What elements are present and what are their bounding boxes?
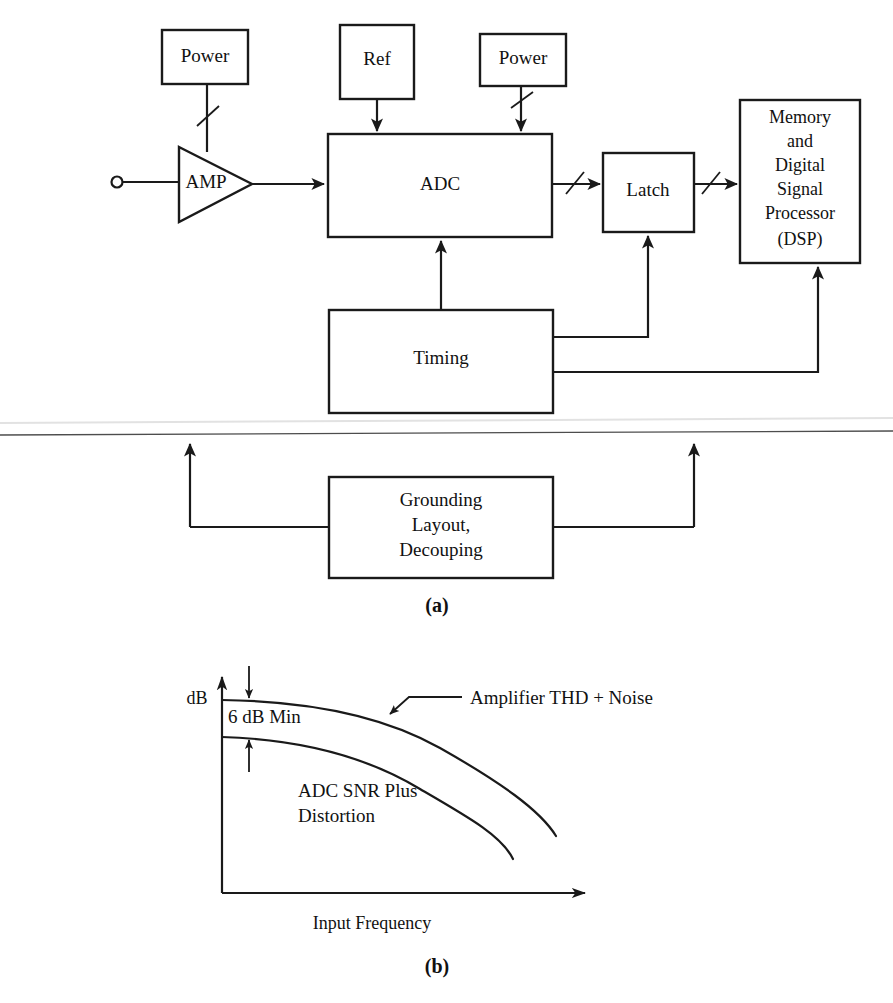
block-grounding-line-1: Grounding (400, 489, 483, 510)
block-power-right-label: Power (499, 47, 548, 68)
wire-timing-to-latch (553, 236, 648, 337)
chart-y-axis-label: dB (186, 688, 207, 708)
block-power-left-label: Power (181, 45, 230, 66)
amplifier-thd-callout-leader (390, 697, 462, 714)
six-db-min-label: 6 dB Min (228, 706, 301, 727)
figure-canvas: Power Ref Power AMP ADC Latch (0, 0, 893, 1003)
input-terminal (112, 177, 123, 188)
block-timing-label: Timing (413, 347, 469, 368)
amplifier-thd-callout-label: Amplifier THD + Noise (470, 687, 653, 708)
block-dsp-line-4: Signal (777, 179, 823, 199)
wire-timing-to-dsp (553, 267, 818, 372)
adc-snr-label-line-1: ADC SNR Plus (298, 780, 417, 801)
part-b-label: (b) (425, 955, 449, 978)
chart-x-axis-label: Input Frequency (313, 913, 431, 933)
block-dsp-line-3: Digital (775, 155, 825, 175)
block-dsp-line-2: and (787, 131, 813, 151)
figure-root: Power Ref Power AMP ADC Latch (0, 0, 893, 1003)
block-dsp-line-6: (DSP) (777, 229, 822, 250)
block-dsp-line-5: Processor (765, 203, 835, 223)
block-dsp-line-1: Memory (769, 107, 831, 127)
block-grounding-line-2: Layout, (412, 514, 471, 535)
block-adc-label: ADC (420, 173, 460, 194)
block-amp-label: AMP (185, 171, 226, 192)
block-grounding-line-3: Decouping (399, 539, 483, 560)
block-ref-label: Ref (363, 48, 391, 69)
section-divider (0, 431, 893, 435)
part-a-label: (a) (425, 594, 448, 617)
adc-snr-label-line-2: Distortion (298, 805, 376, 826)
scan-artifact-line (0, 418, 893, 423)
block-latch-label: Latch (626, 179, 670, 200)
